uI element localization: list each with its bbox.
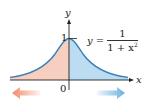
denominator-base: 1 + x	[107, 42, 134, 53]
equation-lhs: y =	[87, 36, 104, 46]
equation-fraction: 1 1 + x2	[107, 29, 138, 53]
equation: y = 1 1 + x2	[87, 29, 138, 53]
left-arrow-icon	[12, 87, 40, 99]
x-axis-label: x	[136, 75, 142, 85]
y-tick-label-one: 1	[61, 33, 67, 43]
right-arrow-icon	[97, 87, 125, 99]
y-axis-arrowhead-icon	[67, 19, 71, 24]
left-area-fill	[10, 39, 69, 81]
equation-numerator: 1	[119, 29, 125, 39]
denominator-exponent: 2	[134, 41, 138, 48]
origin-label: 0	[60, 84, 66, 94]
diagram-canvas	[0, 0, 148, 107]
y-axis-label: y	[65, 8, 71, 18]
x-axis-arrowhead-icon	[129, 78, 134, 82]
equation-denominator: 1 + x2	[107, 42, 138, 53]
